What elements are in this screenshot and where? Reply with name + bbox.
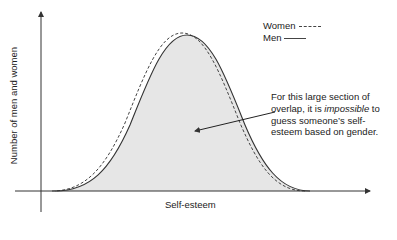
- solid-line-icon: [284, 38, 306, 39]
- legend-label-men: Men: [263, 32, 281, 44]
- y-axis-label: Number of men and women: [8, 41, 19, 171]
- annotation-emphasis: impossible: [324, 103, 369, 114]
- legend-item-men: Men: [263, 32, 321, 44]
- overlap-annotation: For this large section of overlap, it is…: [271, 91, 396, 138]
- legend: Women Men: [263, 20, 321, 44]
- legend-label-women: Women: [263, 20, 296, 32]
- x-axis-label: Self-esteem: [165, 199, 216, 210]
- dashed-line-icon: [299, 26, 321, 27]
- legend-item-women: Women: [263, 20, 321, 32]
